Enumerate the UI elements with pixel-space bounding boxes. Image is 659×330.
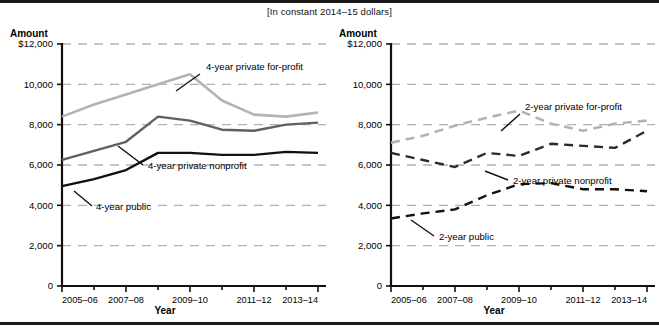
y-tick-label: $12,000 <box>18 38 53 49</box>
year-axis-title-right: Year <box>329 305 659 316</box>
y-tick-label: 0 <box>377 280 382 291</box>
x-tick-label: 2013–14 <box>611 295 647 305</box>
x-tick-label: 2009–10 <box>172 295 208 305</box>
y-tick-label: 10,000 <box>353 79 382 90</box>
chart-panel-right: Amount 02,0004,0006,0008,00010,000$12,00… <box>329 24 659 322</box>
top-rule <box>0 0 659 3</box>
series-annotation-label: 4-year public <box>96 201 151 212</box>
annotation-leader-line <box>485 171 508 180</box>
x-tick-label: 2009–10 <box>501 295 537 305</box>
y-tick-label: 8,000 <box>358 119 382 130</box>
x-tick-label: 2005–06 <box>62 295 98 305</box>
figure-subtitle: [In constant 2014–15 dollars] <box>0 6 659 17</box>
series-annotation-label: 2-year private nonprofit <box>513 175 612 186</box>
x-tick-label: 2011–12 <box>565 295 600 305</box>
y-tick-label: 6,000 <box>358 159 382 170</box>
y-tick-label: 4,000 <box>29 200 53 211</box>
y-tick-label: 8,000 <box>29 119 53 130</box>
y-tick-label: $12,000 <box>347 38 382 49</box>
bottom-rule <box>0 322 659 325</box>
y-tick-label: 10,000 <box>24 79 53 90</box>
line-chart-right: 02,0004,0006,0008,00010,000$12,0002005–0… <box>329 24 659 322</box>
annotation-leader-line <box>74 191 92 206</box>
series-line <box>391 183 647 218</box>
y-tick-label: 6,000 <box>29 159 53 170</box>
x-tick-label: 2007–08 <box>108 295 144 305</box>
x-tick-label: 2007–08 <box>437 295 473 305</box>
y-tick-label: 4,000 <box>358 200 382 211</box>
x-tick-label: 2005–06 <box>391 295 427 305</box>
series-annotation-label: 2-year private for-profit <box>525 101 622 112</box>
series-line <box>391 131 647 167</box>
series-annotation-label: 2-year public <box>439 231 494 242</box>
y-tick-label: 0 <box>48 280 53 291</box>
x-tick-label: 2011–12 <box>236 295 271 305</box>
series-annotation-label: 4-year private nonprofit <box>148 160 247 171</box>
year-axis-title-left: Year <box>0 305 330 316</box>
annotation-leader-line <box>118 146 143 165</box>
x-tick-label: 2013–14 <box>282 295 318 305</box>
annotation-leader-line <box>411 220 434 236</box>
series-annotation-label: 4-year private for-profit <box>206 61 303 72</box>
y-tick-label: 2,000 <box>29 240 53 251</box>
line-chart-left: 02,0004,0006,0008,00010,000$12,0002005–0… <box>0 24 330 322</box>
annotation-leader-line <box>501 114 520 131</box>
chart-panel-left: Amount 02,0004,0006,0008,00010,000$12,00… <box>0 24 330 322</box>
y-tick-label: 2,000 <box>358 240 382 251</box>
